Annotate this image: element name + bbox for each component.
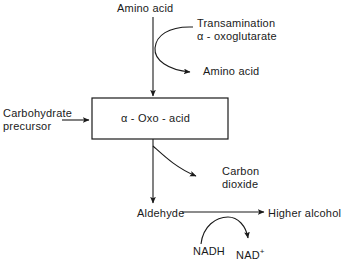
node-label-oxo-acid: α - Oxo - acid bbox=[121, 112, 190, 125]
node-label-nadh: NADH bbox=[193, 245, 225, 258]
edge-nadh-to-nad-arc bbox=[201, 217, 248, 244]
nad-plus-text: NAD bbox=[236, 249, 260, 261]
node-label-oxoglutarate: α - oxoglutarate bbox=[197, 30, 277, 43]
node-label-aldehyde: Aldehyde bbox=[137, 207, 184, 220]
node-label-amino-acid-top: Amino acid bbox=[117, 2, 173, 15]
node-label-higher-alcohol: Higher alcohol bbox=[268, 207, 341, 220]
node-label-transamination: Transamination bbox=[197, 17, 275, 30]
pathway-diagram: Amino acid Transamination α - oxoglutara… bbox=[0, 0, 343, 264]
node-label-carbon-dioxide: Carbon dioxide bbox=[222, 165, 284, 191]
node-label-nad-plus: NAD+ bbox=[236, 245, 265, 262]
node-label-amino-acid-product: Amino acid bbox=[203, 65, 259, 78]
edge-transamination-curve bbox=[155, 27, 193, 72]
edge-carbon-dioxide-curve bbox=[153, 146, 196, 176]
node-label-carbohydrate-precursor: Carbohydrate precursor bbox=[3, 107, 79, 133]
nad-plus-charge: + bbox=[260, 247, 265, 256]
